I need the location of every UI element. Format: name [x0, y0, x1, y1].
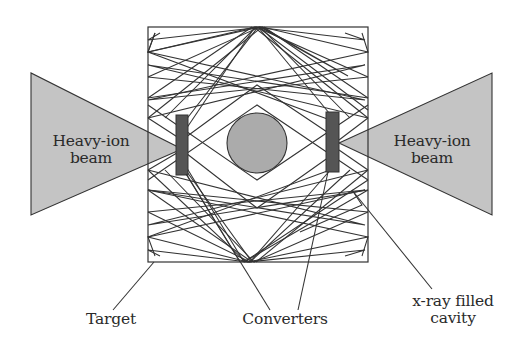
cavity-label-line1: x-ray filled [412, 293, 493, 310]
left-beam-label: Heavy-ion beam [52, 133, 129, 168]
right-beam-label-line2: beam [393, 150, 470, 167]
target-leader [113, 262, 154, 310]
converters-label: Converters [242, 311, 327, 328]
converters-label-text: Converters [242, 310, 327, 328]
left-beam-label-line1: Heavy-ion [52, 133, 129, 150]
left-beam-label-line2: beam [52, 150, 129, 167]
cavity-label-line2: cavity [412, 310, 493, 327]
right-beam-label: Heavy-ion beam [393, 133, 470, 168]
cavity-label: x-ray filled cavity [412, 293, 493, 328]
right-beam-label-line1: Heavy-ion [393, 133, 470, 150]
target-label-text: Target [86, 310, 136, 328]
central-capsule [227, 113, 287, 173]
target-label: Target [86, 311, 136, 328]
right-converter [326, 112, 339, 172]
left-converter [176, 115, 188, 175]
